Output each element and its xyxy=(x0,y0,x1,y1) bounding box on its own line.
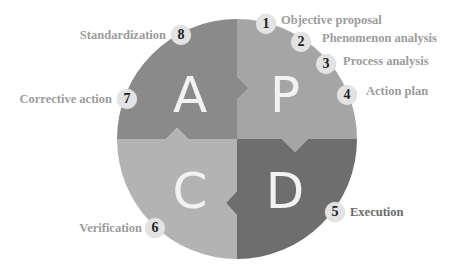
letter-c: C xyxy=(173,162,208,220)
step-badge-1: 1 xyxy=(256,14,276,34)
pdca-diagram: A P C D 1 Objective proposal 2 Phenomeno… xyxy=(0,0,455,272)
step-badge-3: 3 xyxy=(316,54,336,74)
step-label-4: Action plan xyxy=(366,83,428,99)
step-badge-4: 4 xyxy=(337,85,357,105)
step-badge-7: 7 xyxy=(117,89,137,109)
step-label-8: Standardization xyxy=(60,27,166,43)
step-label-2: Phenomenon analysis xyxy=(322,30,437,46)
step-badge-6: 6 xyxy=(145,218,165,238)
letter-d: D xyxy=(266,162,305,220)
step-label-3: Process analysis xyxy=(343,53,429,69)
letter-p: P xyxy=(270,66,300,124)
step-badge-5: 5 xyxy=(325,202,345,222)
step-label-7: Corrective action xyxy=(4,91,112,107)
letter-a: A xyxy=(173,66,207,124)
step-label-5: Execution xyxy=(350,204,403,220)
step-label-6: Verification xyxy=(60,220,142,236)
step-badge-8: 8 xyxy=(171,25,191,45)
step-label-1: Objective proposal xyxy=(281,12,382,28)
step-badge-2: 2 xyxy=(291,32,311,52)
